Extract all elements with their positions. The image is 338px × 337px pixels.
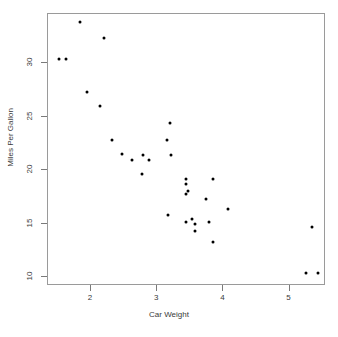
data-point [311, 226, 314, 229]
data-point [131, 158, 134, 161]
data-point [57, 57, 60, 60]
x-axis-tick-label: 2 [88, 293, 92, 302]
data-point [193, 230, 196, 233]
x-axis-tick [90, 285, 91, 291]
data-point [99, 105, 102, 108]
x-axis-tick [289, 285, 290, 291]
data-point [166, 139, 169, 142]
x-axis-tick [156, 285, 157, 291]
plot-panel [47, 13, 325, 285]
data-point [85, 91, 88, 94]
data-point [79, 20, 82, 23]
data-point [185, 192, 188, 195]
y-axis-tick-label: 30 [25, 53, 34, 71]
data-point [147, 158, 150, 161]
x-axis-tick-label: 3 [154, 293, 158, 302]
data-point [190, 217, 193, 220]
data-point [316, 272, 319, 275]
data-point [185, 177, 188, 180]
data-point [170, 154, 173, 157]
scatter-plot-figure: 1015202530 2345 Miles Per Gallon Car Wei… [0, 0, 338, 337]
x-axis-tick [222, 285, 223, 291]
y-axis-tick-label: 15 [25, 214, 34, 232]
data-point [212, 177, 215, 180]
data-point [305, 272, 308, 275]
data-point [167, 214, 170, 217]
y-axis-tick-label: 25 [25, 107, 34, 125]
data-point [211, 241, 214, 244]
x-axis-label: Car Weight [0, 310, 338, 319]
data-point [103, 36, 106, 39]
data-point [193, 222, 196, 225]
y-axis-label: Miles Per Gallon [6, 108, 20, 167]
data-point [168, 122, 171, 125]
y-axis-tick-label: 20 [25, 160, 34, 178]
data-point [185, 183, 188, 186]
data-point [204, 198, 207, 201]
data-point [111, 139, 114, 142]
data-points-layer [48, 14, 324, 284]
data-point [140, 172, 143, 175]
y-axis-tick-label: 10 [25, 267, 34, 285]
data-point [141, 154, 144, 157]
x-axis-tick-label: 4 [220, 293, 224, 302]
data-point [227, 207, 230, 210]
data-point [120, 153, 123, 156]
data-point [64, 57, 67, 60]
data-point [185, 220, 188, 223]
x-axis-tick-label: 5 [286, 293, 290, 302]
data-point [207, 220, 210, 223]
